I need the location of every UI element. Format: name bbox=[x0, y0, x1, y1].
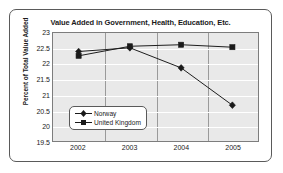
x-tick-label: 2005 bbox=[225, 144, 241, 151]
data-point-marker bbox=[229, 102, 235, 109]
legend-item: Norway bbox=[74, 109, 141, 118]
x-tick-label: 2003 bbox=[122, 144, 138, 151]
x-tick-label: 2004 bbox=[174, 144, 190, 151]
data-point-marker bbox=[178, 65, 184, 72]
legend-item: United Kingdom bbox=[74, 118, 141, 127]
chart-legend: NorwayUnited Kingdom bbox=[69, 106, 147, 130]
y-tick-label: 22 bbox=[24, 60, 50, 67]
y-axis-tick-labels: 2322.52221.52120.52019.5 bbox=[24, 32, 50, 142]
y-tick-label: 22.5 bbox=[24, 44, 50, 51]
legend-marker-diamond-icon bbox=[74, 109, 93, 118]
data-point-marker bbox=[179, 42, 184, 47]
data-point-marker bbox=[76, 53, 81, 58]
legend-label: United Kingdom bbox=[94, 119, 141, 126]
y-tick-label: 20.5 bbox=[24, 107, 50, 114]
y-tick-label: 23 bbox=[24, 29, 50, 36]
y-tick-label: 21.5 bbox=[24, 76, 50, 83]
y-tick-label: 20 bbox=[24, 123, 50, 130]
x-tick-label: 2002 bbox=[70, 144, 86, 151]
x-axis-tick-labels: 2002200320042005 bbox=[52, 144, 259, 156]
legend-marker-square-icon bbox=[74, 118, 93, 127]
data-point-marker bbox=[230, 45, 235, 50]
y-tick-label: 21 bbox=[24, 91, 50, 98]
chart-frame: Value Added in Government, Health, Educa… bbox=[9, 9, 272, 162]
y-tick-label: 19.5 bbox=[24, 139, 50, 146]
data-point-marker bbox=[127, 44, 132, 49]
series-line-norway bbox=[79, 48, 233, 105]
legend-label: Norway bbox=[94, 110, 116, 117]
chart-title: Value Added in Government, Health, Educa… bbox=[10, 18, 271, 27]
